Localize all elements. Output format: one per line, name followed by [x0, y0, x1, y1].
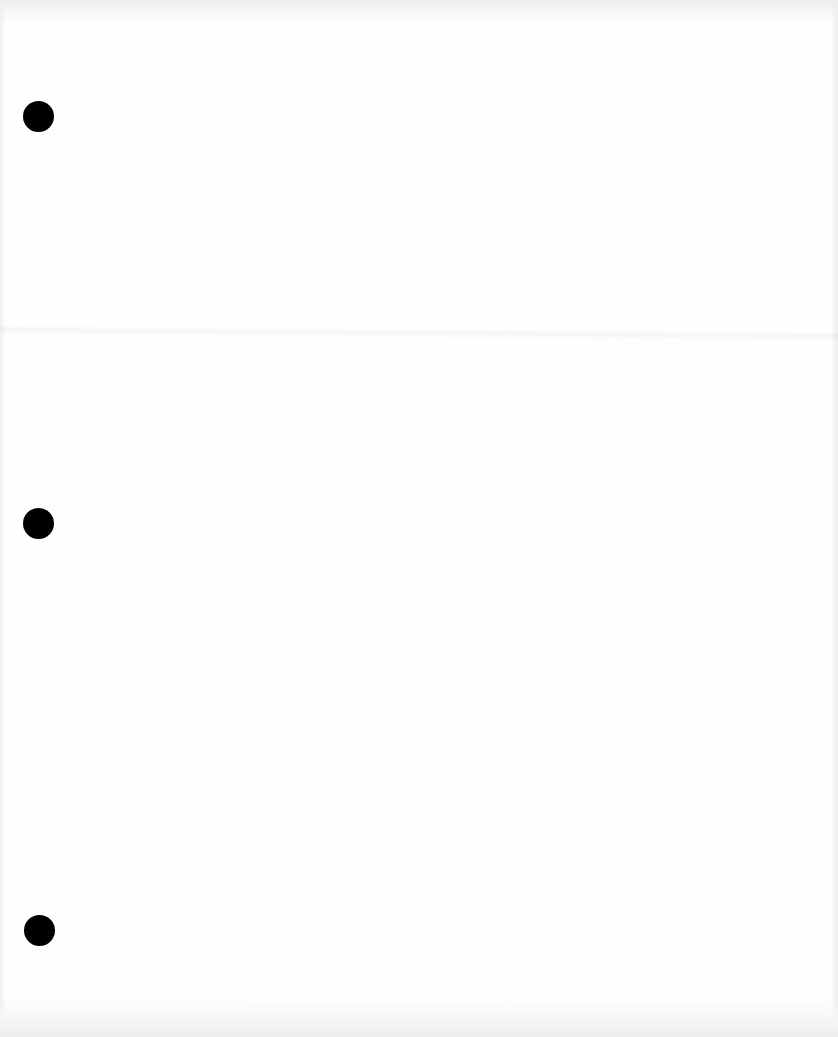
binder-hole-top — [23, 101, 54, 132]
scanned-page — [0, 0, 838, 1037]
page-right-edge-shadow — [830, 0, 838, 1037]
binder-hole-bottom — [24, 915, 55, 946]
fold-crease — [0, 325, 838, 342]
page-left-edge-shadow — [0, 0, 6, 1037]
page-bottom-edge-shadow — [0, 999, 838, 1037]
page-top-edge-shadow — [0, 0, 838, 22]
binder-hole-middle — [23, 508, 54, 539]
